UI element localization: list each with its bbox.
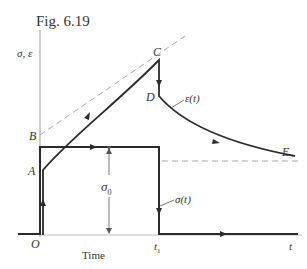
stress-label-leader — [160, 200, 174, 206]
point-d-label: D — [146, 91, 155, 103]
stress-curve-label: σ(t) — [175, 194, 191, 205]
point-b-label: B — [29, 130, 36, 142]
point-a-label: A — [28, 165, 35, 177]
dimension-arrow-icon — [106, 148, 112, 154]
direction-arrow-icon — [156, 208, 162, 215]
creep-recovery-diagram — [0, 0, 307, 269]
x-axis-label: Time — [82, 250, 105, 261]
direction-arrow-icon — [84, 112, 90, 120]
figure-title: Fig. 6.19 — [36, 14, 90, 29]
point-e-label: E — [282, 146, 289, 158]
strain-label-leader — [171, 100, 184, 108]
point-c-label: C — [153, 46, 161, 58]
strain-curve-label: ε(t) — [185, 93, 200, 104]
x-axis-end-label: t — [289, 241, 292, 252]
origin-label: O — [31, 238, 40, 250]
direction-arrow-icon — [90, 144, 97, 150]
direction-arrow-icon — [212, 139, 220, 144]
t1-label: t1 — [154, 241, 161, 255]
sigma0-label: σ0 — [101, 180, 111, 197]
stress-curve — [18, 147, 298, 234]
y-axis-label: σ, ε — [17, 48, 32, 59]
dimension-arrow-icon — [106, 228, 112, 234]
dashed-tangent-line — [40, 34, 188, 135]
figure-6-19: Fig. 6.19 σ, ε C B A D E O ε(t) σ(t) σ0 … — [0, 0, 307, 269]
direction-arrow-icon — [156, 80, 162, 87]
direction-arrow-icon — [220, 231, 227, 237]
